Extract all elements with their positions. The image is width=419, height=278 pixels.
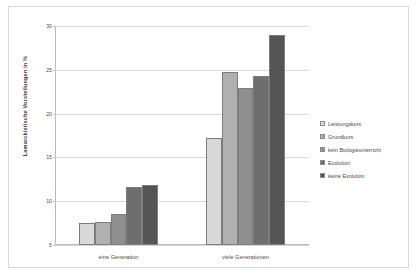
x-tick-label: viele Generationen — [222, 254, 269, 260]
y-tick-label: 30 — [46, 23, 52, 29]
legend-label: kein Biologieunterricht — [328, 147, 381, 153]
bar — [142, 185, 158, 245]
legend-swatch-icon — [320, 134, 325, 139]
legend-swatch-icon — [320, 121, 325, 126]
plot-area: 51015202530 eine Generationviele Generat… — [55, 26, 309, 245]
bar — [79, 223, 95, 245]
y-tick-label: 10 — [46, 198, 52, 204]
legend-item[interactable]: keine Evolution — [320, 169, 419, 182]
legend-label: Evolution — [328, 160, 350, 166]
bar — [111, 214, 127, 245]
legend-item[interactable]: kein Biologieunterricht — [320, 143, 419, 156]
bar — [253, 76, 269, 245]
y-tick-label: 20 — [46, 111, 52, 117]
chart-legend: LeistungskursGrundkurskein Biologieunter… — [320, 117, 419, 182]
legend-swatch-icon — [320, 147, 325, 152]
legend-label: Leistungskurs — [328, 121, 361, 127]
bar-group — [79, 26, 158, 245]
figure-frame: Lamarckistische Vorstellungen in % 51015… — [8, 6, 409, 268]
legend-label: Grundkurs — [328, 134, 353, 140]
legend-swatch-icon — [320, 173, 325, 178]
bar — [269, 35, 285, 245]
x-tick-label: eine Generation — [99, 254, 139, 260]
bar — [238, 88, 254, 245]
bar — [126, 187, 142, 245]
legend-item[interactable]: Leistungskurs — [320, 117, 419, 130]
y-tick-label: 25 — [46, 67, 52, 73]
y-tick-label: 15 — [46, 154, 52, 160]
legend-swatch-icon — [320, 160, 325, 165]
y-axis-title: Lamarckistische Vorstellungen in % — [22, 26, 28, 186]
legend-item[interactable]: Grundkurs — [320, 130, 419, 143]
y-tick-label: 5 — [49, 242, 52, 248]
chart-figure: Lamarckistische Vorstellungen in % 51015… — [0, 0, 419, 278]
bar-group — [206, 26, 285, 245]
legend-label: keine Evolution — [328, 173, 365, 179]
bar — [206, 138, 222, 245]
bar — [95, 222, 111, 245]
legend-item[interactable]: Evolution — [320, 156, 419, 169]
bar — [222, 72, 238, 245]
gridline — [55, 245, 309, 246]
bar-series-container — [55, 26, 309, 245]
y-tick-mark — [53, 245, 55, 246]
